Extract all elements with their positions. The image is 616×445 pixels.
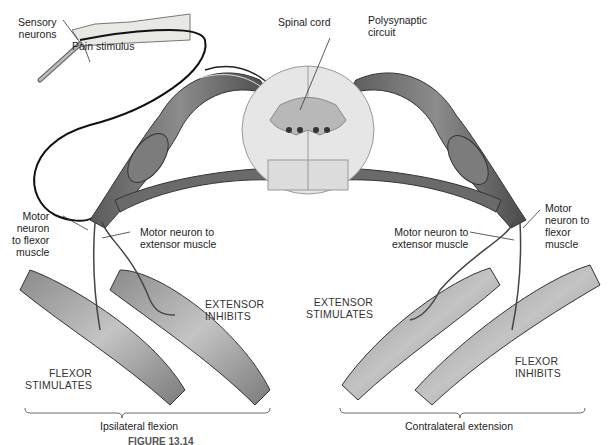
ipsilateral-brace <box>25 408 270 418</box>
label-spinal-cord: Spinal cord <box>278 16 331 28</box>
figure-caption: FIGURE 13.14 <box>128 436 194 445</box>
label-left-motor-flexor: Motor neuron to flexor muscle <box>12 210 49 258</box>
label-ipsilateral-flexion: Ipsilateral flexion <box>100 420 178 432</box>
label-pain-stimulus: Pain stimulus <box>72 40 134 52</box>
spinal-cord-cross-section <box>242 66 374 194</box>
label-left-motor-extensor: Motor neuron to extensor muscle <box>140 226 216 250</box>
label-contralateral-extension: Contralateral extension <box>405 420 513 432</box>
label-sensory-neurons: Sensory neurons <box>18 16 57 40</box>
label-right-extensor-state: EXTENSOR STIMULATES <box>306 296 373 320</box>
label-right-motor-flexor: Motor neuron to flexor muscle <box>545 202 589 250</box>
label-right-motor-extensor: Motor neuron to extensor muscle <box>392 226 468 250</box>
label-polysynaptic-circuit: Polysynaptic circuit <box>368 14 427 38</box>
label-left-extensor-state: EXTENSOR INHIBITS <box>205 298 264 322</box>
label-right-flexor-state: FLEXOR INHIBITS <box>515 355 561 379</box>
contralateral-brace <box>340 408 585 418</box>
label-left-flexor-state: FLEXOR STIMULATES <box>25 367 92 391</box>
